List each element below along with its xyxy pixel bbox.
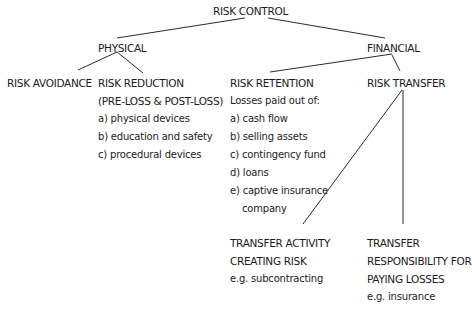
- list-item: a) physical devices: [98, 110, 223, 128]
- list-intro: Losses paid out of:: [230, 92, 328, 110]
- node-label: RISK AVOIDANCE: [7, 77, 92, 89]
- list-item: b) selling assets: [230, 128, 328, 146]
- list-item: e) captive insurance: [230, 182, 328, 200]
- node-transfer-responsibility: TRANSFER RESPONSIBILITY FOR PAYING LOSSE…: [367, 234, 471, 306]
- node-label-line: RESPONSIBILITY FOR: [367, 252, 471, 270]
- list-item-continuation: company: [230, 200, 328, 218]
- list-item: a) cash flow: [230, 110, 328, 128]
- node-risk-retention: RISK RETENTION Losses paid out of: a) ca…: [230, 74, 328, 218]
- node-label: FINANCIAL: [367, 42, 420, 54]
- node-label: RISK CONTROL: [213, 5, 288, 17]
- node-subtitle: (PRE-LOSS & POST-LOSS): [98, 92, 223, 110]
- node-transfer-activity: TRANSFER ACTIVITY CREATING RISK e.g. sub…: [230, 234, 330, 288]
- node-label: PHYSICAL: [98, 42, 146, 54]
- node-example: e.g. subcontracting: [230, 270, 330, 288]
- edge-root-physical: [117, 18, 245, 38]
- list-item: c) procedural devices: [98, 146, 223, 164]
- node-label-line: TRANSFER ACTIVITY: [230, 234, 330, 252]
- node-financial: FINANCIAL: [367, 39, 420, 57]
- node-label: RISK RETENTION: [230, 74, 328, 92]
- edge-financial-transfer: [392, 55, 400, 71]
- node-label: RISK TRANSFER: [367, 77, 445, 89]
- list-item: b) education and safety: [98, 128, 223, 146]
- node-label-line: PAYING LOSSES: [367, 270, 471, 288]
- node-physical: PHYSICAL: [98, 39, 146, 57]
- list-item: c) contingency fund: [230, 146, 328, 164]
- node-label-line: TRANSFER: [367, 234, 471, 252]
- list-item: d) loans: [230, 164, 328, 182]
- node-risk-reduction: RISK REDUCTION (PRE-LOSS & POST-LOSS) a)…: [98, 74, 223, 164]
- node-label: RISK REDUCTION: [98, 74, 223, 92]
- node-example: e.g. insurance: [367, 288, 471, 306]
- edge-root-financial: [268, 18, 385, 38]
- node-risk-transfer: RISK TRANSFER: [367, 74, 445, 92]
- node-risk-avoidance: RISK AVOIDANCE: [7, 74, 92, 92]
- node-risk-control: RISK CONTROL: [213, 2, 288, 20]
- node-label-line: CREATING RISK: [230, 252, 330, 270]
